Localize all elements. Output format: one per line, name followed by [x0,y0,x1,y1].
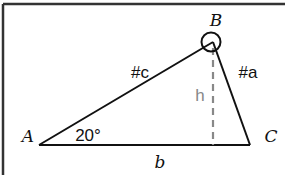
vertex-b-marker[interactable] [202,33,221,52]
side-b-label: b [155,152,166,172]
side-c-label: #c [131,63,149,82]
vertex-b-label: B [209,10,223,30]
triangle-diagram: B A C #c #a b h 20° [0,0,285,175]
vertex-c-label: C [264,126,277,146]
side-c [39,42,213,145]
height-label: h [195,86,204,105]
angle-a-label: 20° [75,126,101,145]
side-a-label: #a [239,63,258,82]
vertex-a-label: A [20,126,34,146]
side-a [213,42,250,145]
